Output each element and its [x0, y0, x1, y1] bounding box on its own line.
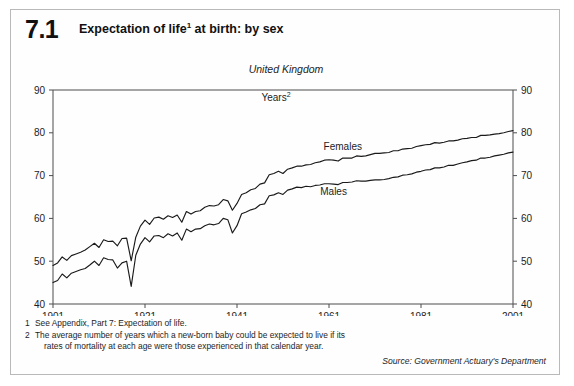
svg-text:70: 70	[34, 170, 46, 181]
svg-text:60: 60	[34, 213, 46, 224]
footnotes-block: 1 See Appendix, Part 7: Expectation of l…	[25, 318, 525, 353]
svg-text:2001: 2001	[502, 311, 525, 316]
svg-text:1941: 1941	[226, 311, 249, 316]
figure-title-main: Expectation of life	[79, 22, 187, 36]
figure-frame: 7.1 Expectation of life1 at birth: by se…	[10, 9, 560, 375]
svg-text:50: 50	[34, 256, 46, 267]
footnote-2-line1: The average number of years which a new-…	[35, 330, 345, 340]
footnote-2-number: 2	[25, 330, 35, 353]
svg-text:50: 50	[521, 256, 533, 267]
svg-text:90: 90	[521, 85, 533, 96]
svg-text:Females: Females	[324, 141, 362, 152]
chart-axes	[49, 90, 517, 308]
svg-text:1921: 1921	[134, 311, 157, 316]
line-chart-plot: 4040505060607070808090901901192119411961…	[11, 56, 561, 316]
svg-text:Males: Males	[320, 186, 347, 197]
svg-text:70: 70	[521, 170, 533, 181]
chart-tick-labels: 4040505060607070808090901901192119411961…	[34, 85, 533, 317]
svg-text:60: 60	[521, 213, 533, 224]
svg-text:1901: 1901	[42, 311, 65, 316]
svg-text:80: 80	[521, 127, 533, 138]
svg-text:90: 90	[34, 85, 46, 96]
page-title: Expectation of life1 at birth: by sex	[79, 22, 284, 36]
footnote-1-number: 1	[25, 318, 35, 330]
chart-region: United Kingdom Years2 404050506060707080…	[11, 56, 561, 316]
svg-text:40: 40	[34, 299, 46, 310]
svg-text:1981: 1981	[410, 311, 433, 316]
svg-text:40: 40	[521, 299, 533, 310]
svg-text:1961: 1961	[318, 311, 341, 316]
figure-number: 7.1	[25, 15, 58, 44]
footnote-2: 2 The average number of years which a ne…	[25, 330, 525, 353]
figure-title-tail: at birth: by sex	[191, 22, 283, 36]
svg-text:80: 80	[34, 127, 46, 138]
footnote-2-text: The average number of years which a new-…	[35, 330, 525, 353]
footnote-1: 1 See Appendix, Part 7: Expectation of l…	[25, 318, 525, 330]
footnote-2-line2: rates of mortality at each age were thos…	[35, 341, 323, 351]
figure-header: 7.1 Expectation of life1 at birth: by se…	[11, 10, 559, 56]
source-attribution: Source: Government Actuary's Department	[382, 356, 546, 366]
footnote-1-text: See Appendix, Part 7: Expectation of lif…	[35, 318, 525, 330]
chart-series-lines	[53, 131, 513, 287]
chart-series-labels: FemalesMales	[320, 141, 362, 197]
